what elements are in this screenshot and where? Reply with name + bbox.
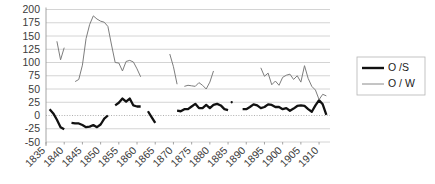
y-tick-label: 75 — [28, 69, 40, 81]
y-tick-label: 150 — [22, 30, 40, 42]
chart-legend: O /SO / W — [357, 57, 425, 95]
y-tick-label: 0 — [34, 109, 40, 121]
data-series-group — [50, 16, 327, 129]
series-line-os — [71, 116, 107, 128]
series-line-os — [148, 111, 155, 123]
x-tick-label: 1910 — [295, 144, 320, 169]
y-tick-label: -25 — [25, 122, 40, 134]
chart-container: 2001751501251007550250-25-50 18351840184… — [0, 0, 435, 184]
line-chart: 2001751501251007550250-25-50 18351840184… — [0, 0, 435, 184]
series-line-ow — [184, 71, 213, 89]
series-point — [231, 101, 233, 103]
series-line-os — [50, 109, 65, 129]
series-line-os — [177, 104, 228, 111]
y-tick-label: 125 — [22, 43, 40, 55]
legend-label-ow: O / W — [388, 77, 415, 89]
legend-label-os: O /S — [388, 61, 409, 73]
y-tick-label: 100 — [22, 56, 40, 68]
y-tick-label: 25 — [28, 96, 40, 108]
series-line-ow — [75, 16, 141, 82]
series-line-ow — [57, 41, 64, 60]
y-axis-tick-labels: 2001751501251007550250-25-50 — [22, 3, 40, 148]
y-tick-label: 200 — [22, 3, 40, 15]
axes-group — [46, 8, 319, 147]
series-line-ow — [261, 66, 327, 100]
x-axis-tick-labels: 1835184018451850185518601865187018751880… — [22, 144, 320, 169]
y-tick-label: 50 — [28, 83, 40, 95]
series-line-ow — [170, 54, 177, 84]
y-tick-label: 175 — [22, 16, 40, 28]
